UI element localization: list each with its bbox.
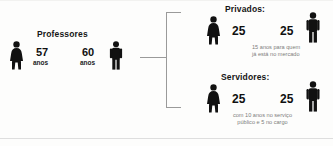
bracket-top-arm-line (166, 12, 181, 13)
woman-figure-icon (9, 41, 24, 70)
professores-female-figure (9, 41, 24, 70)
privados-male-value: 25 (280, 26, 293, 37)
professores-male-figure (109, 41, 123, 70)
servidores-title: Servidores: (221, 72, 269, 82)
professores-male-age-value: 60 (82, 47, 94, 58)
privados-title: Privados: (225, 4, 265, 14)
bottom-divider-rule (0, 138, 333, 139)
man-figure-icon (109, 41, 123, 70)
man-figure-icon (305, 81, 321, 112)
professores-female-age-unit: anos (33, 59, 48, 67)
right-group-privados: Privados: 25 25 15 anos para quem já est… (190, 0, 333, 70)
infographic-canvas: Professores 57 anos 60 anos (0, 0, 333, 146)
woman-figure-icon (206, 84, 221, 113)
privados-female-figure (206, 16, 221, 45)
servidores-male-value: 25 (280, 94, 293, 105)
bracket-vertical-line (166, 12, 167, 108)
servidores-caption-line-2: público e 5 no cargo (195, 119, 330, 127)
bracket-bottom-arm-line (166, 107, 181, 108)
servidores-female-figure (206, 84, 221, 113)
right-group-servidores: Servidores: 25 25 com 10 anos no serviço… (190, 70, 333, 146)
woman-figure-icon (206, 16, 221, 45)
privados-male-figure (305, 12, 321, 43)
servidores-male-figure (305, 81, 321, 112)
professores-male-age-unit: anos (80, 59, 95, 67)
servidores-female-value: 25 (232, 94, 245, 105)
bracket-connector (140, 0, 172, 146)
privados-caption-line-2: já está no mercado (252, 51, 332, 59)
bracket-stem-line (140, 57, 167, 58)
left-group-professores: Professores 57 anos 60 anos (0, 0, 155, 146)
professores-female-age-value: 57 (36, 47, 48, 58)
professores-title: Professores (37, 29, 88, 39)
man-figure-icon (305, 12, 321, 43)
privados-female-value: 25 (232, 26, 245, 37)
